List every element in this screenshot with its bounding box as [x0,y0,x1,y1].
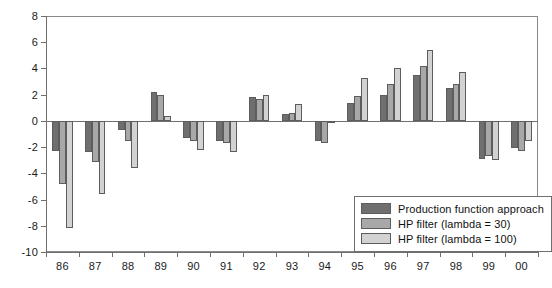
x-axis-tick-label: 99 [482,260,495,272]
bar [282,114,289,121]
bar [479,121,486,159]
bar [453,84,460,121]
y-axis-tick-label: 4 [32,62,38,74]
y-axis-tick-label: 2 [32,89,38,101]
bar [295,104,302,121]
x-axis-tick-label: 89 [154,260,167,272]
y-axis-tick-label: -8 [28,220,38,232]
y-axis-tick-label: -2 [28,141,38,153]
bar [347,103,354,121]
bar [485,121,492,156]
x-axis-tick-label: 00 [515,260,528,272]
bar [380,95,387,121]
x-axis-tick [341,252,342,257]
bar [289,113,296,121]
y-axis-tick-label: 8 [32,10,38,22]
x-axis-tick-label: 93 [286,260,299,272]
x-axis-line [46,252,538,253]
bar [249,97,256,121]
x-axis-tick-label: 91 [220,260,233,272]
bar [223,121,230,143]
bar [256,99,263,121]
x-axis-tick-label: 88 [122,260,135,272]
legend-label: HP filter (lambda = 100) [398,233,517,245]
bar [525,121,532,141]
bar [446,88,453,121]
x-axis-tick [79,252,80,257]
x-axis-tick-label: 95 [351,260,364,272]
bar [354,96,361,121]
x-axis-tick [112,252,113,257]
bar [518,121,525,151]
x-axis-tick [374,252,375,257]
y-axis-labels: -10-8-6-4-202468 [0,16,46,252]
bar [216,121,223,141]
bar [511,121,518,149]
bar [99,121,106,194]
y-axis-tick-label: -6 [28,194,38,206]
bar [59,121,66,184]
bar [92,121,99,162]
x-axis-tick [407,252,408,257]
bar [459,72,466,121]
x-axis-tick-label: 92 [253,260,266,272]
x-axis-tick [243,252,244,257]
bar [118,121,125,130]
bar [394,68,401,120]
bar [420,66,427,121]
y-axis-tick-label: -4 [28,167,38,179]
chart-legend: Production function approach HP filter (… [354,196,552,252]
bar [66,121,73,229]
x-axis-tick-label: 90 [187,260,200,272]
y-axis-tick-label: 6 [32,36,38,48]
x-axis-tick [177,252,178,257]
x-axis-tick [46,252,47,257]
x-axis-tick [538,252,539,257]
bar [387,84,394,121]
bar [413,75,420,121]
y-axis-tick-label: 0 [32,115,38,127]
x-axis-tick-label: 96 [384,260,397,272]
x-axis-tick [144,252,145,257]
x-axis-tick [440,252,441,257]
x-axis-tick [308,252,309,257]
bar [183,121,190,138]
bar [328,121,335,124]
bar [151,92,158,121]
legend-item-production-function: Production function approach [361,201,544,216]
legend-item-hp-filter-30: HP filter (lambda = 30) [361,216,544,231]
x-axis-tick [472,252,473,257]
x-axis-tick [210,252,211,257]
legend-swatch-icon [361,233,391,244]
x-axis-tick-label: 97 [417,260,430,272]
bar [315,121,322,141]
bar [157,95,164,121]
legend-swatch-icon [361,203,391,214]
bar [164,116,171,121]
x-axis-tick-label: 86 [56,260,69,272]
bar [125,121,132,141]
bar [131,121,138,168]
bar [230,121,237,152]
x-axis-tick-label: 98 [450,260,463,272]
bar [190,121,197,141]
bar [197,121,204,150]
x-axis-tick-label: 87 [89,260,102,272]
bar [52,121,59,151]
legend-item-hp-filter-100: HP filter (lambda = 100) [361,231,544,246]
bar [361,78,368,121]
bar [263,95,270,121]
x-axis-tick [505,252,506,257]
x-axis-tick [276,252,277,257]
bar [85,121,92,152]
bar [492,121,499,160]
bar [427,50,434,121]
legend-label: Production function approach [398,203,544,215]
x-axis-tick-label: 94 [318,260,331,272]
legend-label: HP filter (lambda = 30) [398,218,510,230]
y-axis-tick-label: -10 [22,246,39,258]
legend-swatch-icon [361,218,391,229]
bar [321,121,328,143]
